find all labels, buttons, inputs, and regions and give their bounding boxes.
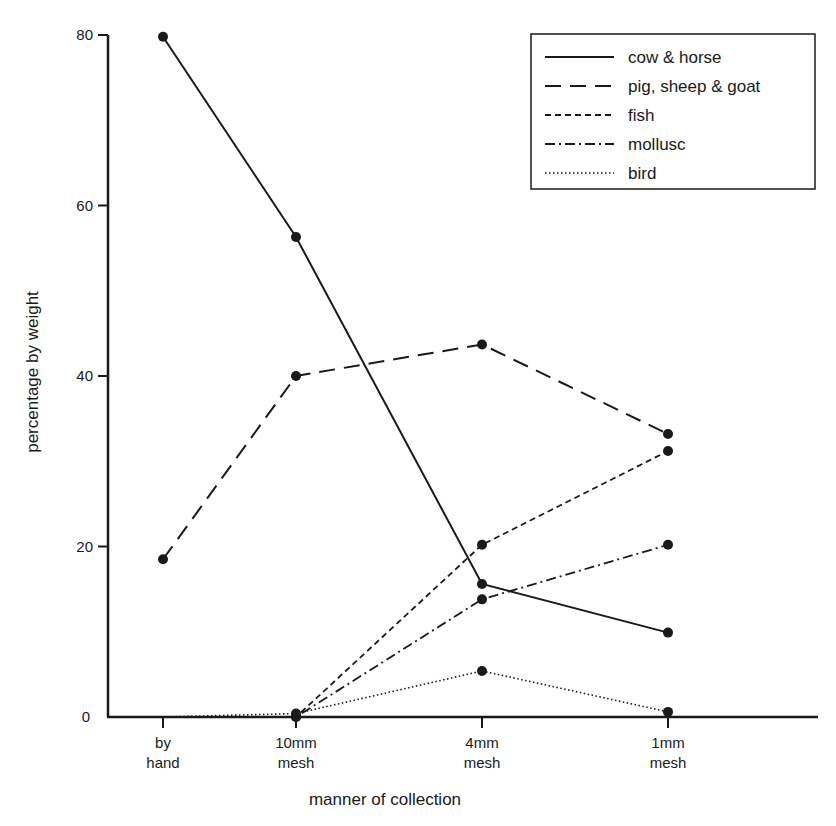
data-point (663, 429, 673, 439)
series-line (163, 344, 668, 559)
x-tick-label: 4mm (465, 734, 498, 751)
data-point (477, 339, 487, 349)
y-tick-label: 20 (76, 538, 93, 555)
legend-label: cow & horse (628, 48, 722, 67)
data-point (158, 554, 168, 564)
data-point (477, 540, 487, 550)
series-line (163, 451, 668, 717)
series-mollusc (163, 540, 673, 722)
y-tick-label: 80 (76, 26, 93, 43)
data-point (663, 707, 673, 717)
series-line (163, 671, 668, 717)
data-point (291, 371, 301, 381)
y-axis-title: percentage by weight (23, 291, 42, 453)
series-line (163, 545, 668, 717)
x-axis-title: manner of collection (309, 790, 461, 809)
data-point (477, 579, 487, 589)
legend-label: bird (628, 164, 656, 183)
legend: cow & horsepig, sheep & goatfishmolluscb… (531, 34, 815, 189)
legend-label: mollusc (628, 135, 686, 154)
series-bird (163, 666, 673, 719)
data-point (291, 709, 301, 719)
data-point (158, 32, 168, 42)
x-tick-label: mesh (464, 754, 501, 771)
series-pig-sheep-goat (158, 339, 673, 564)
y-tick-label: 60 (76, 197, 93, 214)
data-point (291, 232, 301, 242)
y-tick-label: 0 (82, 708, 90, 725)
data-point (663, 540, 673, 550)
series-fish (163, 446, 673, 722)
x-tick-label: hand (146, 754, 179, 771)
legend-label: fish (628, 106, 654, 125)
data-point (663, 446, 673, 456)
x-tick-label: 10mm (275, 734, 317, 751)
line-chart: 020406080byhand10mmmesh4mmmesh1mmmesh co… (0, 0, 836, 826)
data-point (477, 666, 487, 676)
x-tick-label: mesh (650, 754, 687, 771)
x-tick-label: 1mm (651, 734, 684, 751)
data-point (663, 628, 673, 638)
y-tick-label: 40 (76, 367, 93, 384)
legend-label: pig, sheep & goat (628, 77, 761, 96)
x-tick-label: by (155, 734, 171, 751)
data-point (477, 594, 487, 604)
x-tick-label: mesh (278, 754, 315, 771)
